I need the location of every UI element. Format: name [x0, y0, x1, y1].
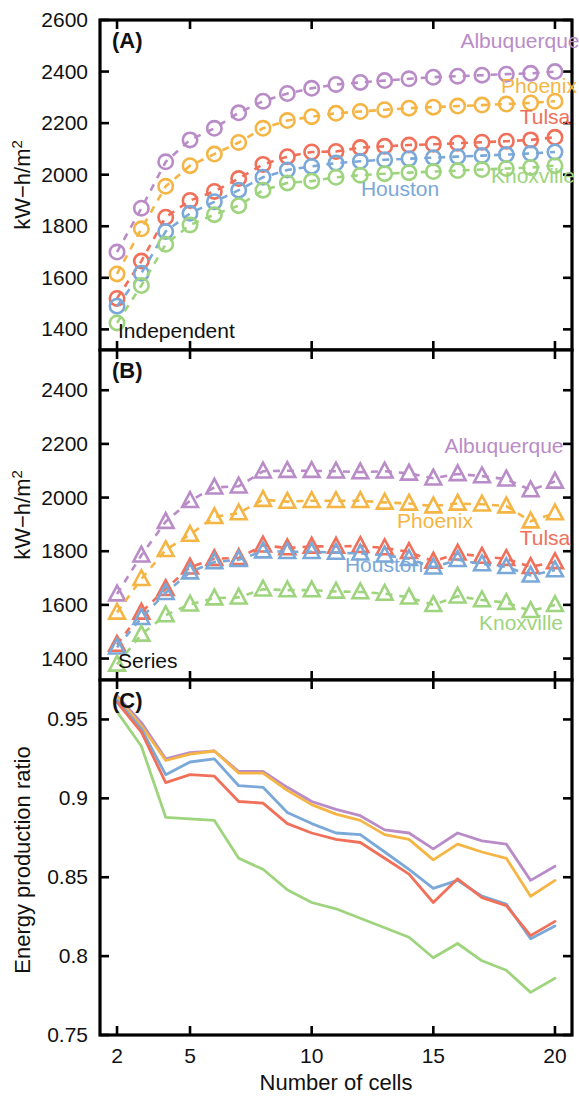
y-tick-label-A: 1400 — [41, 317, 88, 340]
y-tick-label-C: 0.9 — [59, 786, 88, 809]
y-tick-label-B: 1800 — [41, 539, 88, 562]
panel-C: 0.750.80.850.90.95(C) — [47, 680, 572, 1046]
y-tick-label-A: 2200 — [41, 111, 88, 134]
y-tick-label-B: 2200 — [41, 432, 88, 455]
series-label-phoenix-A: Phoenix — [501, 74, 577, 97]
y-tick-label-A: 2400 — [41, 60, 88, 83]
panel-B: 140016001800200022002400(B)SeriesAlbuque… — [41, 350, 572, 680]
y-tick-label-B: 2000 — [41, 486, 88, 509]
y-axis-title-a: kW−h/m2 — [8, 140, 35, 230]
x-tick-label: 10 — [300, 1044, 323, 1067]
panel-tag-C: (C) — [112, 688, 143, 713]
series-label-tulsa-A: Tulsa — [520, 105, 571, 128]
y-axis-title-c: Energy production ratio — [10, 746, 35, 973]
y-tick-label-C: 0.75 — [47, 1023, 88, 1046]
y-tick-label-A: 2000 — [41, 163, 88, 186]
y-tick-label-A: 1600 — [41, 266, 88, 289]
y-axis-title-b: kW−h/m2 — [8, 470, 35, 560]
x-tick-label: 2 — [111, 1044, 123, 1067]
figure-root: 1400160018002000220024002600(A)Independe… — [0, 0, 579, 1096]
x-tick-label: 20 — [543, 1044, 566, 1067]
series-label-knoxville-B: Knoxville — [479, 611, 563, 634]
panel-note-B: Series — [118, 649, 178, 672]
x-axis-title: Number of cells — [260, 1070, 413, 1095]
y-tick-label-C: 0.95 — [47, 707, 88, 730]
series-label-albuquerque-B: Albuquerque — [444, 434, 563, 457]
y-axis-title-a-text: kW−h/m2 — [8, 140, 35, 230]
series-label-houston-A: Houston — [361, 177, 439, 200]
y-tick-label-B: 2400 — [41, 378, 88, 401]
series-label-albuquerque-A: Albuquerque — [460, 29, 579, 52]
series-label-phoenix-B: Phoenix — [397, 509, 473, 532]
three-panel-chart: 1400160018002000220024002600(A)Independe… — [0, 0, 579, 1096]
series-label-tulsa-B: Tulsa — [520, 526, 571, 549]
panel-tag-B: (B) — [112, 358, 143, 383]
x-tick-label: 15 — [422, 1044, 445, 1067]
panel-note-A: Independent — [118, 319, 235, 342]
y-tick-label-C: 0.8 — [59, 944, 88, 967]
y-tick-label-A: 1800 — [41, 214, 88, 237]
series-label-knoxville-A: Knoxville — [491, 164, 575, 187]
y-axis-title-c-text: Energy production ratio — [10, 746, 35, 973]
panel-A: 1400160018002000220024002600(A)Independe… — [41, 8, 579, 350]
panel-tag-A: (A) — [112, 28, 143, 53]
y-axis-title-b-text: kW−h/m2 — [8, 470, 35, 560]
y-tick-label-B: 1600 — [41, 593, 88, 616]
series-label-houston-B: Houston — [345, 553, 423, 576]
y-tick-label-C: 0.85 — [47, 865, 88, 888]
x-tick-label: 5 — [184, 1044, 196, 1067]
y-tick-label-B: 1400 — [41, 647, 88, 670]
y-tick-label-A: 2600 — [41, 8, 88, 31]
